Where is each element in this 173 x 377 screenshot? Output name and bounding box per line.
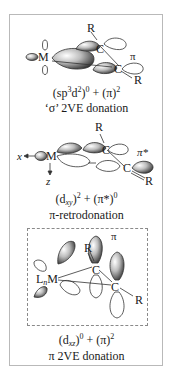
panel-pi-retrodonation xyxy=(24,134,153,180)
orbital-lobe-dxz-left-open xyxy=(34,260,46,271)
atom-label-metal: M xyxy=(38,51,49,63)
orbital-diagrams xyxy=(0,0,173,377)
axis-label-x: x xyxy=(17,150,22,162)
atom-label-c2: C xyxy=(114,63,122,75)
orbital-lobe-dxz-right-open xyxy=(60,280,80,294)
orbital-lobe-small-bottom xyxy=(43,66,48,75)
orbital-lobe-pi-c2-upper xyxy=(110,252,124,280)
orbital-label-pistar: π* xyxy=(137,146,148,158)
orbital-label-pi: π xyxy=(111,230,117,242)
atom-label-r1: R xyxy=(87,22,95,34)
atom-label-r2: R xyxy=(134,74,142,86)
orbital-label-pi: π xyxy=(130,50,136,62)
atom-label-r2: R xyxy=(135,294,143,306)
caption-formula-2: (dxy)2 + (π*)0 xyxy=(0,192,173,206)
orbital-lobe-small-top xyxy=(43,40,48,50)
caption-text-3: π 2VE donation xyxy=(0,349,173,363)
atom-label-metal: M xyxy=(46,150,57,162)
orbital-lobe-pistar-c1-open xyxy=(108,144,128,155)
atom-label-c1: C xyxy=(96,43,104,55)
caption-formula-3: (dxz)0 + (π)2 xyxy=(0,333,173,347)
axis-label-z: z xyxy=(46,175,50,187)
atom-label-r1: R xyxy=(84,242,92,254)
orbital-lobe-small-left xyxy=(26,54,38,61)
atom-label-c1: C xyxy=(92,264,100,276)
atom-label-ligand-metal: LnM xyxy=(36,273,58,285)
orbital-lobe-pistar-c2-open xyxy=(96,161,120,172)
orbital-lobe-dxy-lower-open xyxy=(57,154,90,167)
orbital-lobe-pistar-c2 xyxy=(132,161,153,173)
orbital-lobe-dxz-lower xyxy=(34,287,47,298)
caption-formula-1: (sp3d2)0 + (π)2 xyxy=(0,86,173,100)
atom-label-c2: C xyxy=(111,281,119,293)
orbital-lobe-open-c1 xyxy=(104,38,126,50)
caption-text-1: ‘σ’ 2VE donation xyxy=(0,101,173,115)
orbital-lobe-dxy-upper xyxy=(57,143,82,153)
atom-label-c2: C xyxy=(123,162,131,174)
orbital-lobe-pi-c1-lower-open xyxy=(90,275,103,298)
atom-label-c1: C xyxy=(102,144,110,156)
caption-text-2: π-retrodonation xyxy=(0,208,173,222)
atom-label-r1: R xyxy=(95,121,103,133)
atom-label-r2: R xyxy=(145,175,153,187)
orbital-lobe-dxz-upper xyxy=(58,241,75,264)
orbital-lobe-pi-c2-lower-open xyxy=(110,292,124,318)
